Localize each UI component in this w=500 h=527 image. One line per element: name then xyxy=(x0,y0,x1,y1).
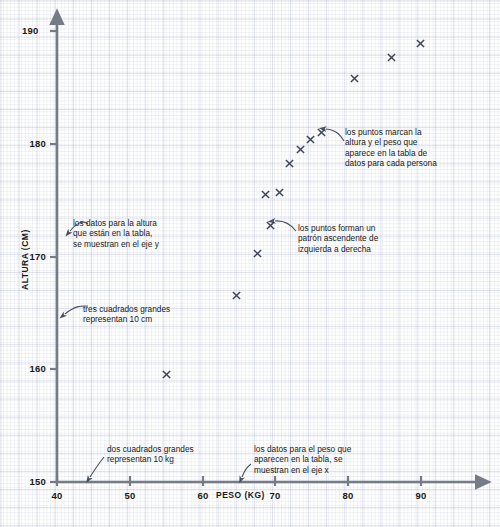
x-tick-label-60: 60 xyxy=(191,490,215,501)
data-point-marker xyxy=(261,185,270,194)
data-point-marker xyxy=(275,183,284,192)
scatter-plot-figure: 150 160 170 180 190 40 50 60 70 80 90 AL… xyxy=(0,0,500,527)
data-point-marker xyxy=(350,69,359,78)
data-point-marker xyxy=(232,286,241,295)
data-point-marker xyxy=(306,130,315,139)
leader-line-trend-note xyxy=(275,221,296,231)
annotation-points-note: los puntos marcan la altura y el peso qu… xyxy=(345,127,473,169)
y-tick-label-190: 190 xyxy=(22,25,38,36)
x-axis-title: PESO (KG) xyxy=(216,490,265,500)
x-tick-label-70: 70 xyxy=(263,490,287,501)
annotation-x-axis-note: los datos para el peso que aparecen en l… xyxy=(254,444,384,475)
axes-and-annotation-lines xyxy=(0,0,500,527)
annotation-y-axis-note: los datos para la altura que están en la… xyxy=(73,218,193,249)
data-point-marker xyxy=(285,154,294,163)
data-point-marker xyxy=(296,140,305,149)
x-tick-label-90: 90 xyxy=(409,490,433,501)
leader-line-points-note xyxy=(326,129,344,141)
annotation-trend-note: los puntos forman un patrón ascendente d… xyxy=(298,223,418,254)
data-point-marker xyxy=(416,34,425,43)
leader-line-x-axis-note xyxy=(242,464,251,477)
annotation-y-scale-note: tres cuadrados grandes representan 10 cm xyxy=(83,304,201,325)
data-point-marker xyxy=(317,123,326,132)
y-tick-label-150: 150 xyxy=(22,476,46,487)
x-tick-label-50: 50 xyxy=(118,490,142,501)
data-point-marker xyxy=(253,244,262,253)
leader-line-x-scale-note xyxy=(90,457,104,477)
y-tick-label-180: 180 xyxy=(22,138,46,149)
data-point-marker xyxy=(266,216,275,225)
data-point-marker xyxy=(387,48,396,57)
y-axis-title: ALTURA (CM) xyxy=(20,229,30,290)
x-tick-label-40: 40 xyxy=(45,490,69,501)
x-tick-label-80: 80 xyxy=(336,490,360,501)
annotation-x-scale-note: dos cuadrados grandes representan 10 kg xyxy=(107,444,227,465)
data-point-marker xyxy=(162,365,171,374)
y-tick-label-160: 160 xyxy=(22,363,46,374)
